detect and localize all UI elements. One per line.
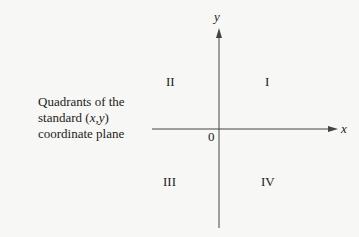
x-axis-label: x <box>341 122 347 136</box>
y-axis-arrow-icon <box>216 28 222 38</box>
quadrant-4-label: IV <box>261 175 275 189</box>
quadrant-1-label: I <box>265 75 269 89</box>
origin-label: 0 <box>208 130 215 144</box>
quadrant-2-label: II <box>166 75 175 89</box>
quadrant-3-label: III <box>163 175 176 189</box>
y-axis-label: y <box>214 10 220 24</box>
coordinate-plane <box>0 0 359 237</box>
x-axis-arrow-icon <box>328 126 338 132</box>
